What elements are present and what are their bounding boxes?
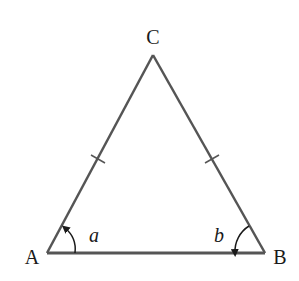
vertex-label-b: B xyxy=(273,246,286,268)
side-ac xyxy=(47,55,153,253)
side-bc xyxy=(153,55,265,253)
angle-arc-b xyxy=(235,226,249,253)
angle-label-a: a xyxy=(89,224,99,246)
vertex-label-c: C xyxy=(146,26,159,48)
triangle-diagram: C A B a b xyxy=(0,0,299,281)
angle-label-b: b xyxy=(214,224,224,246)
angle-arc-a xyxy=(65,228,75,253)
vertex-label-a: A xyxy=(25,246,40,268)
